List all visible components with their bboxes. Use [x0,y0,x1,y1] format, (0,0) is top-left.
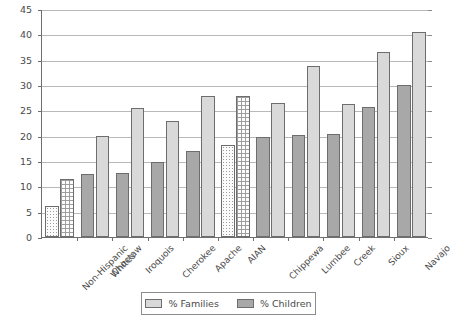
plot-area [41,10,428,238]
bar-children-lumbee [292,135,306,237]
y-axis-tick [38,61,42,62]
x-axis-tick [77,237,78,241]
y-axis-tick-right [428,35,432,36]
y-axis-label: 35 [0,56,32,66]
y-axis-label: 0 [0,233,32,243]
x-axis-label: Navajo [424,243,453,272]
x-axis-tick [323,237,324,241]
legend-label-families: % Families [168,299,218,309]
gridline [42,86,428,87]
y-axis-tick [38,86,42,87]
bar-children-chippewa [256,137,270,237]
x-axis-label: Chippewa [287,243,326,282]
y-axis-label: 20 [0,132,32,142]
x-axis-tick [394,237,395,241]
y-axis-tick [38,213,42,214]
y-axis-label: 10 [0,182,32,192]
y-axis-label: 40 [0,30,32,40]
y-axis-label: 25 [0,106,32,116]
bar-families-apache [201,96,215,237]
y-axis-tick-right [428,238,432,239]
chart-legend: % Families % Children [141,292,316,315]
y-axis-tick-right [428,137,432,138]
bar-children-sioux [362,107,376,237]
gridline [42,35,428,36]
x-axis-tick [288,237,289,241]
x-axis-tick [253,237,254,241]
bar-families-navajo [412,32,426,237]
bar-children-choctaw [81,174,95,237]
y-axis-tick [38,137,42,138]
x-axis-tick [359,237,360,241]
legend-swatch-children-icon [237,299,254,308]
bar-families-chippewa [271,103,285,237]
y-axis-tick-right [428,10,432,11]
bar-families-iroquois [131,108,145,237]
bar-children-apache [186,151,200,237]
y-axis-tick-right [428,187,432,188]
y-axis-label: 15 [0,157,32,167]
x-axis-tick [148,237,149,241]
legend-label-children: % Children [260,299,312,309]
y-axis-tick-right [428,213,432,214]
bar-children-aian [221,145,235,237]
y-axis-tick [38,162,42,163]
bar-children-non-hispanic-whites [45,206,59,237]
y-axis-tick-right [428,162,432,163]
y-axis-tick-right [428,61,432,62]
legend-item-children: % Children [237,299,312,309]
bar-families-aian [236,96,250,237]
bar-children-cherokee [151,162,165,237]
legend-swatch-families-icon [145,299,162,308]
bar-families-creek [342,104,356,237]
gridline [42,61,428,62]
y-axis-tick [38,187,42,188]
x-axis-tick [218,237,219,241]
x-axis-tick [183,237,184,241]
x-axis-label: Iroquois [143,243,176,276]
y-axis-tick-right [428,111,432,112]
bar-children-navajo [397,85,411,237]
bar-families-choctaw [96,136,110,237]
x-axis-label: Sioux [386,243,411,268]
y-axis-tick [38,35,42,36]
bar-children-creek [327,134,341,237]
x-axis-label: Creek [352,243,378,269]
bar-families-non-hispanic-whites [60,179,74,237]
y-axis-tick-right [428,86,432,87]
y-axis-tick [38,238,42,239]
bar-families-lumbee [307,66,321,237]
x-axis-label: Cherokee [181,243,218,280]
x-axis-tick [112,237,113,241]
gridline [42,10,428,11]
y-axis-label: 30 [0,81,32,91]
x-axis-label: Lumbee [319,243,352,276]
x-axis-label: Apache [213,243,244,274]
y-axis-label: 45 [0,5,32,15]
bar-families-sioux [377,52,391,237]
x-axis-label: AIAN [245,243,268,266]
bar-children-iroquois [116,173,130,237]
y-axis-tick [38,10,42,11]
legend-item-families: % Families [145,299,218,309]
y-axis-label: 5 [0,208,32,218]
bar-families-cherokee [166,121,180,237]
y-axis-tick [38,111,42,112]
